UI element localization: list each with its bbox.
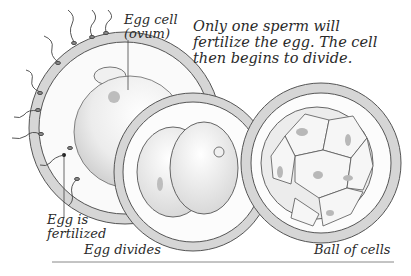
caption: Only one sperm will fertilize the egg. T… [193,18,377,67]
egg-cell-label: Egg cell (ovum) [124,13,178,40]
ball-of-cells-label: Ball of cells [314,243,390,257]
ball-of-cells-stage [241,83,401,243]
egg-divides-label: Egg divides [84,243,161,257]
egg-fertilized-label: Egg is fertilized [47,213,106,240]
